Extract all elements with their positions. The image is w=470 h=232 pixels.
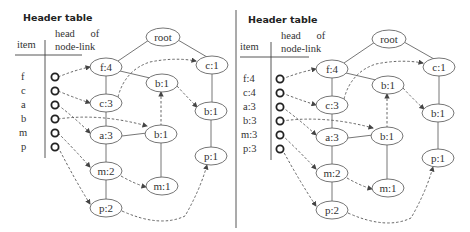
- item-label: p:3: [243, 143, 256, 154]
- svg-text:a:3: a:3: [325, 131, 339, 143]
- tree-node: m:2: [316, 164, 348, 182]
- svg-text:c:1: c:1: [205, 59, 218, 71]
- node-link-head-icon: [276, 117, 283, 124]
- svg-text:f:4: f:4: [326, 63, 339, 75]
- tree-node: b:1: [371, 127, 403, 145]
- item-label: a:3: [243, 101, 256, 112]
- tree-node: m:1: [146, 177, 178, 195]
- tree-node: c:3: [316, 96, 348, 114]
- head-column-header-line1: head of: [55, 28, 100, 39]
- svg-text:m:1: m:1: [153, 180, 170, 192]
- svg-text:m:1: m:1: [379, 182, 396, 194]
- svg-text:root: root: [154, 31, 172, 43]
- svg-text:b:1: b:1: [431, 107, 445, 119]
- svg-text:a:3: a:3: [99, 129, 113, 141]
- tree-node: b:1: [145, 125, 177, 143]
- svg-text:c:3: c:3: [325, 99, 339, 111]
- node-link-head-icon: [276, 131, 283, 138]
- tree-node: f:4: [316, 60, 348, 78]
- tree-node: c:1: [423, 58, 455, 76]
- node-link-head-icon: [276, 103, 283, 110]
- item-column-header: item: [17, 39, 36, 50]
- item-label: m:3: [241, 129, 257, 140]
- head-column-header-line1: head of: [281, 30, 326, 41]
- item-label: c:4: [243, 87, 257, 98]
- head-column-header-line2: node-link: [55, 41, 96, 52]
- svg-text:b:1: b:1: [381, 79, 395, 91]
- node-link-head-icon: [51, 73, 58, 80]
- tree-node: m:1: [372, 179, 404, 197]
- node-link-head-icon: [276, 89, 283, 96]
- node-link-head-icon: [51, 143, 58, 150]
- item-label: a: [21, 99, 26, 110]
- item-label: b:3: [243, 115, 256, 126]
- tree-node: m:2: [90, 162, 122, 180]
- fp-tree-diagram: Header table item head of node-link f c …: [0, 0, 470, 232]
- tree-node: b:1: [195, 102, 227, 120]
- tree-node-root: root: [146, 28, 180, 46]
- node-link-head-icon: [276, 145, 283, 152]
- tree-node: p:1: [195, 147, 227, 165]
- item-label: f: [21, 71, 25, 82]
- svg-text:p:2: p:2: [99, 202, 113, 214]
- svg-text:b:1: b:1: [380, 130, 394, 142]
- node-link-head-icon: [276, 75, 283, 82]
- tree-node-root: root: [372, 30, 406, 48]
- item-label: f:4: [243, 73, 255, 84]
- svg-text:m:2: m:2: [97, 165, 114, 177]
- svg-text:b:1: b:1: [155, 77, 169, 89]
- svg-text:p:2: p:2: [325, 204, 339, 216]
- node-link-head-icon: [51, 101, 58, 108]
- tree-node: b:1: [146, 74, 178, 92]
- tree-node: p:2: [90, 199, 122, 217]
- left-panel: Header table item head of node-link f c …: [15, 12, 228, 221]
- item-label: c: [21, 85, 26, 96]
- tree-node: p:2: [316, 201, 348, 219]
- header-table-title: Header table: [248, 14, 318, 25]
- tree-node: b:1: [422, 104, 454, 122]
- item-label: p: [21, 141, 26, 152]
- tree-node: c:3: [90, 94, 122, 112]
- tree-node: a:3: [316, 128, 348, 146]
- tree-node: p:1: [422, 149, 454, 167]
- header-table-title: Header table: [23, 12, 93, 23]
- svg-text:p:1: p:1: [204, 150, 218, 162]
- svg-text:f:4: f:4: [100, 61, 113, 73]
- tree-node: b:1: [372, 76, 404, 94]
- svg-text:b:1: b:1: [204, 105, 218, 117]
- svg-text:c:3: c:3: [99, 97, 113, 109]
- node-link-head-icon: [51, 87, 58, 94]
- node-link-head-icon: [51, 129, 58, 136]
- svg-text:root: root: [380, 33, 398, 45]
- tree-node: c:1: [196, 56, 228, 74]
- svg-text:b:1: b:1: [154, 128, 168, 140]
- item-label: b: [21, 113, 26, 124]
- tree-node: a:3: [90, 126, 122, 144]
- svg-text:c:1: c:1: [432, 61, 445, 73]
- head-column-header-line2: node-link: [281, 43, 322, 54]
- svg-text:p:1: p:1: [431, 152, 445, 164]
- svg-text:m:2: m:2: [323, 167, 340, 179]
- node-link-head-icon: [51, 115, 58, 122]
- item-column-header: item: [240, 41, 259, 52]
- tree-node: f:4: [90, 58, 122, 76]
- right-panel: Header table item head of node-link f:4 …: [240, 14, 455, 223]
- item-label: m: [19, 127, 27, 138]
